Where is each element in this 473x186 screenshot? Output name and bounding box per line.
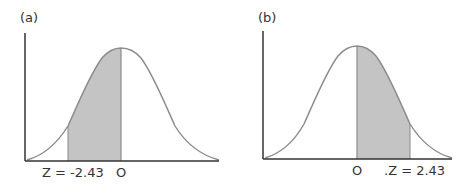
panel-a-shaded-area — [68, 48, 121, 161]
panel-b-zero-label: O — [352, 163, 362, 178]
normal-distribution-figure: (a) Z = -2.43 O (b) O .Z = 2.43 — [0, 0, 473, 186]
panel-b-label: (b) — [258, 10, 276, 25]
panel-b-z-label: .Z = 2.43 — [384, 163, 445, 178]
panel-a-zero-label: O — [116, 165, 126, 180]
panel-a-z-label: Z = -2.43 — [42, 165, 104, 180]
panel-a-label: (a) — [20, 10, 38, 25]
panel-b: (b) O .Z = 2.43 — [258, 10, 452, 178]
panel-a: (a) Z = -2.43 O — [20, 10, 219, 180]
panel-b-shaded-area — [357, 46, 410, 159]
panel-a-bell-curve — [27, 48, 219, 160]
